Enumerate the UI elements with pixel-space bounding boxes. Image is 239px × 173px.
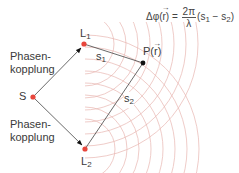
label-s: S	[19, 90, 26, 103]
label-l2-sub: 2	[87, 160, 91, 169]
formula-denominator: λ	[182, 18, 196, 29]
edge-l2-p	[85, 63, 143, 149]
label-s2-sub: 2	[130, 97, 134, 106]
coupling-top-line2: kopplung	[10, 63, 55, 76]
label-s2: s2	[124, 92, 134, 108]
formula-rhs-close: )	[231, 11, 234, 22]
formula-lhs-suffix: ) =	[166, 11, 178, 22]
formula-fraction: 2π λ	[182, 6, 196, 29]
label-p: P(r)	[143, 45, 161, 58]
label-s1: s1	[96, 50, 106, 66]
coupling-top-line1: Phasen-	[10, 50, 55, 63]
label-s-text: S	[19, 90, 26, 102]
label-l2: L2	[81, 155, 92, 171]
formula-lhs-prefix: Δφ(	[146, 11, 163, 22]
formula-numerator: 2π	[182, 6, 196, 18]
node-s	[30, 94, 35, 99]
coupling-label-bottom: Phasen- kopplung	[10, 118, 55, 144]
formula-lhs-vector: r	[163, 11, 166, 22]
node-p	[141, 61, 146, 66]
formula-rhs-mid: − s	[210, 11, 226, 22]
coupling-bottom-line2: kopplung	[10, 131, 55, 144]
label-p-vector: r	[154, 45, 158, 58]
phase-difference-formula: Δφ(r) = 2π λ (s1 − s2)	[146, 6, 234, 29]
coupling-label-top: Phasen- kopplung	[10, 50, 55, 76]
coupling-bottom-line1: Phasen-	[10, 118, 55, 131]
label-s1-sub: 1	[102, 55, 106, 64]
node-l2	[82, 146, 87, 151]
label-l1-sub: 1	[86, 32, 90, 41]
label-l1: L1	[80, 27, 91, 43]
